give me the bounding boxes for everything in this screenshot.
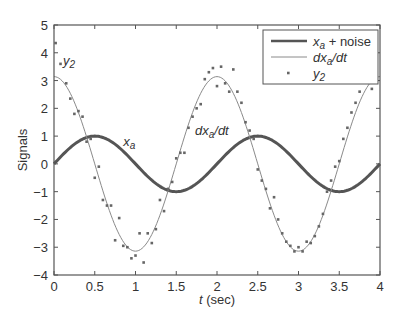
y2-marker [163,210,166,213]
y2-marker [73,113,76,116]
y2-marker [65,82,68,85]
y-axis-label: Signals [15,128,30,171]
y2-marker [281,232,284,235]
label-suffix: + noise [325,34,371,49]
y2-marker [77,110,80,113]
y2-marker [330,179,333,182]
y2-marker [155,228,158,231]
y2-marker [130,257,133,260]
y2-marker [326,190,329,193]
label-suffix: /dt [331,50,348,65]
y2-marker [358,90,361,93]
y2-marker [261,179,264,182]
y2-marker [256,168,259,171]
y2-marker [208,71,211,74]
y-tick-label: −1 [33,185,48,200]
chart-container: 00.511.522.533.54−4−3−2−1012345 y2xadxa/… [0,0,401,320]
legend: xa + noisedxa/dty2 [263,30,378,84]
y-tick-label: 5 [41,18,48,33]
y2-marker [85,140,88,143]
y2-marker [216,85,219,88]
y-tick-label: 3 [41,74,48,89]
y2-marker [244,121,247,124]
y2-marker [228,90,231,93]
x-axis-label: t (sec) [199,292,235,307]
x-axis-label-unit: (sec) [203,292,236,307]
y2-marker [89,138,92,141]
y2-marker [309,242,312,245]
y2-marker [236,90,239,93]
label-main: dx [195,123,209,138]
y2-marker [187,126,190,129]
annotation-dxa: dxa/dt [195,123,230,140]
label-suffix: /dt [213,123,230,138]
y2-marker [142,261,145,264]
y2-marker [69,97,72,100]
x-tick-label: 3.5 [330,279,348,294]
y-tick-label: 2 [41,101,48,116]
y2-marker [138,232,141,235]
y2-marker [195,107,198,110]
y2-marker [183,151,186,154]
y2-marker [293,250,296,253]
x-tick-label: 3 [295,279,302,294]
legend-marker-icon [287,72,290,75]
y2-marker [342,138,345,141]
y2-marker [297,246,300,249]
xa-noise-line [54,136,380,192]
y2-marker [199,103,202,106]
y2-marker [98,165,101,168]
y-tick-label: 1 [41,129,48,144]
y2-marker [248,129,251,132]
signals-chart: 00.511.522.533.54−4−3−2−1012345 y2xadxa/… [0,0,401,320]
x-tick-label: 0.5 [86,279,104,294]
y2-marker [191,115,194,118]
label-subscript: 2 [319,72,326,83]
label-main: dx [313,50,327,65]
y2-marker [305,240,308,243]
y2-marker [171,181,174,184]
y-tick-label: 0 [41,157,48,172]
y2-marker [277,218,280,221]
label-subscript: a [130,140,136,151]
y2-marker [118,217,121,220]
label-subscript: 2 [68,59,75,70]
y2-marker [54,42,57,45]
y2-marker [106,204,109,207]
y2-marker [175,157,178,160]
annotation-xa: xa [122,134,135,151]
y2-marker [146,232,149,235]
y2-marker [285,240,288,243]
y2-marker [338,160,341,163]
y2-marker [265,188,268,191]
y2-marker [314,235,317,238]
y2-marker [167,188,170,191]
y-tick-label: −3 [33,240,48,255]
x-tick-label: 4 [376,279,383,294]
x-tick-label: 1 [132,279,139,294]
y2-marker [346,126,349,129]
y-tick-label: −4 [33,268,48,283]
y2-marker [273,196,276,199]
x-tick-label: 0 [50,279,57,294]
y2-marker [159,199,162,202]
annotation-y2: y2 [62,53,75,70]
y2-marker [354,101,357,104]
y2-marker [269,207,272,210]
y2-marker [110,204,113,207]
y2-marker [102,199,105,202]
y2-marker [318,225,321,228]
y-tick-label: −2 [33,212,48,227]
y2-marker [126,246,129,249]
y2-marker [81,115,84,118]
x-tick-label: 2.5 [249,279,267,294]
y2-marker [350,111,353,114]
y2-marker [322,213,325,216]
y2-marker [240,101,243,104]
y2-marker [122,245,125,248]
y2-marker [371,88,374,91]
y2-marker [93,176,96,179]
y2-marker [59,63,62,66]
y2-marker [179,151,182,154]
y2-marker [252,138,255,141]
